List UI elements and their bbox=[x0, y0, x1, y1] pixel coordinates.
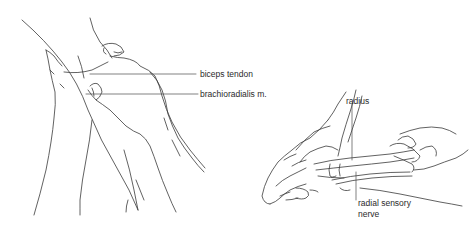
label-brachioradialis: brachioradialis m. bbox=[200, 89, 267, 99]
right-illustration bbox=[262, 90, 468, 206]
left-illustration bbox=[22, 18, 205, 215]
label-biceps-tendon: biceps tendon bbox=[200, 69, 253, 79]
label-radial-sensory-nerve-line1: radial sensory bbox=[358, 198, 411, 208]
label-radial-sensory-nerve-line2: nerve bbox=[358, 209, 379, 219]
anatomy-figure: biceps tendon brachioradialis m. radius … bbox=[0, 0, 475, 236]
label-radius: radius bbox=[346, 96, 369, 106]
